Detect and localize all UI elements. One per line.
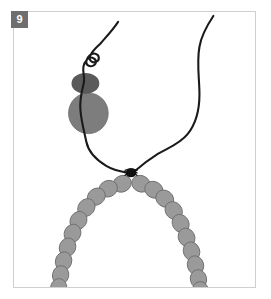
small-blob-shape <box>72 73 100 94</box>
figure-root: 9 <box>0 0 271 299</box>
figure-frame <box>13 11 256 288</box>
right-bead-chain <box>129 172 210 287</box>
right-filament-strand <box>134 16 213 172</box>
figure-canvas <box>14 12 255 287</box>
blob-group <box>69 73 109 134</box>
large-blob-shape <box>69 93 109 134</box>
left-bead-chain <box>49 172 134 287</box>
panel-number-label: 9 <box>11 11 28 28</box>
